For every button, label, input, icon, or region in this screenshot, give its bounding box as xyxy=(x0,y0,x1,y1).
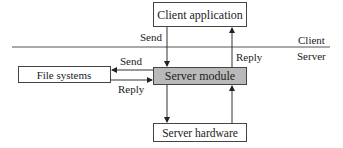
server-module-box: Server module xyxy=(154,68,247,85)
server-module-label: Server module xyxy=(165,69,235,83)
client-application-label: Client application xyxy=(157,8,243,22)
reply-label-left: Reply xyxy=(118,83,145,95)
file-systems-box: File systems xyxy=(19,67,111,83)
client-server-diagram: Client application Server module File sy… xyxy=(0,0,343,148)
server-side-label: Server xyxy=(297,50,326,62)
client-side-label: Client xyxy=(298,34,325,46)
server-hardware-label: Server hardware xyxy=(162,127,238,139)
send-label-left: Send xyxy=(120,55,143,67)
server-hardware-box: Server hardware xyxy=(154,124,247,142)
client-application-box: Client application xyxy=(154,3,247,27)
reply-label-top: Reply xyxy=(236,51,263,63)
file-systems-label: File systems xyxy=(37,69,92,81)
send-label-top: Send xyxy=(140,31,163,43)
